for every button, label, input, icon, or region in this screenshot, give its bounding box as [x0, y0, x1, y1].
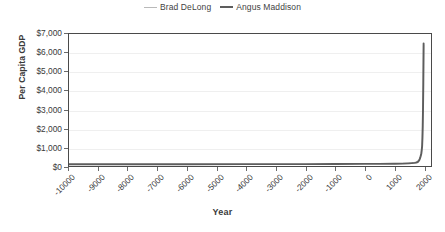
- x-tick-mark: [395, 167, 396, 171]
- x-tick-mark: [127, 167, 128, 171]
- x-axis-ticks: -10000-9000-8000-7000-6000-5000-4000-300…: [0, 0, 445, 232]
- x-tick-mark: [306, 167, 307, 171]
- x-tick-mark: [335, 167, 336, 171]
- chart-container: Brad DeLong Angus Maddison Per Capita GD…: [0, 0, 445, 232]
- x-tick-mark: [187, 167, 188, 171]
- x-tick-mark: [425, 167, 426, 171]
- x-tick-mark: [217, 167, 218, 171]
- x-tick-mark: [365, 167, 366, 171]
- x-tick-mark: [246, 167, 247, 171]
- x-tick-mark: [68, 167, 69, 171]
- x-tick-mark: [276, 167, 277, 171]
- x-axis-title: Year: [0, 207, 445, 217]
- x-tick-mark: [157, 167, 158, 171]
- x-tick-mark: [98, 167, 99, 171]
